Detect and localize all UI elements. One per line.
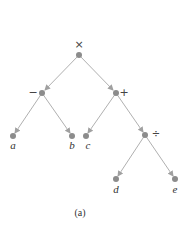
nodes xyxy=(10,52,178,182)
edge-root-plus xyxy=(79,55,113,90)
node-e xyxy=(172,176,178,182)
figure-caption: (a) xyxy=(74,207,85,219)
expression-tree-diagram: × − + a b c ÷ d e (a) xyxy=(0,0,192,229)
edge-div-d xyxy=(118,135,145,176)
label-plus: + xyxy=(119,86,128,99)
edge-minus-b xyxy=(42,93,70,133)
label-a: a xyxy=(10,139,16,151)
label-div: ÷ xyxy=(152,128,160,139)
node-minus xyxy=(39,90,45,96)
node-plus xyxy=(113,90,119,96)
label-root: × xyxy=(74,38,83,51)
edges xyxy=(15,55,173,176)
node-div xyxy=(142,132,148,138)
label-b: b xyxy=(69,139,75,151)
label-c: c xyxy=(86,139,91,151)
node-root xyxy=(76,52,82,58)
label-e: e xyxy=(173,183,178,195)
labels: × − + a b c ÷ d e xyxy=(10,38,177,195)
node-d xyxy=(113,176,119,182)
label-d: d xyxy=(113,183,119,195)
edge-root-minus xyxy=(45,55,79,90)
edge-plus-c xyxy=(88,93,116,133)
edge-div-e xyxy=(145,135,173,176)
edge-minus-a xyxy=(15,93,42,133)
label-minus: − xyxy=(28,86,37,99)
